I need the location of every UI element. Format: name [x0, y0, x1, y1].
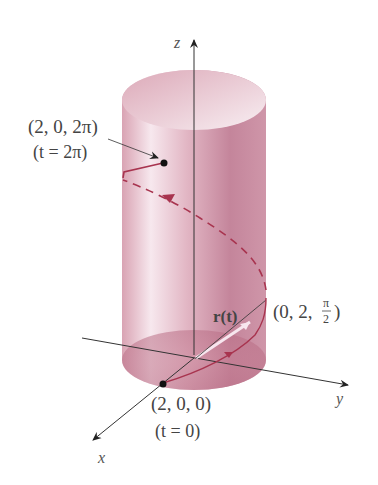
z-axis-label: z [173, 34, 181, 51]
vector-label: r(t) [213, 307, 238, 326]
start-point [160, 381, 167, 388]
start-param-label: (t = 0) [155, 421, 200, 442]
svg-text:π: π [323, 296, 329, 310]
svg-text:): ) [334, 301, 340, 323]
y-axis-label: y [334, 390, 344, 408]
mid-point-label: (0, 2, π 2 ) [273, 296, 340, 326]
svg-text:2: 2 [323, 312, 329, 326]
helix-diagram: z y x (2, 0, 2π) (t = 2π) (2, 0, 0) (t =… [0, 0, 378, 485]
top-param-label: (t = 2π) [33, 142, 87, 163]
start-point-label: (2, 0, 0) [151, 393, 211, 415]
top-point [161, 160, 168, 167]
svg-text:(0, 2,: (0, 2, [273, 301, 313, 323]
top-point-label: (2, 0, 2π) [28, 116, 98, 138]
x-axis-label: x [97, 449, 105, 466]
